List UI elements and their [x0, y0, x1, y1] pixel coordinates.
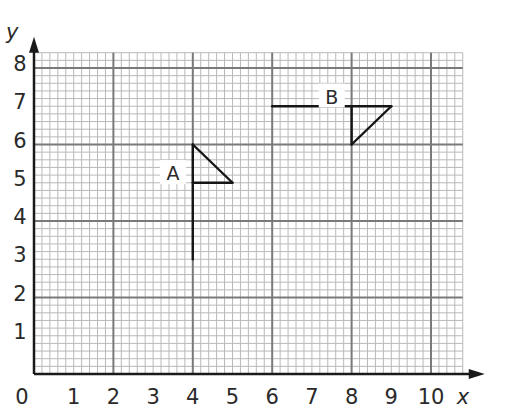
x-tick-label: 3: [146, 385, 159, 409]
x-axis-arrow-icon: [469, 369, 485, 379]
x-tick-label: 10: [418, 385, 445, 409]
y-tick-labels: 12345678: [13, 52, 26, 344]
y-tick-label: 1: [13, 320, 26, 344]
x-tick-label: 9: [385, 385, 398, 409]
shape-segment: [193, 145, 233, 183]
minor-grid: [34, 53, 463, 374]
coordinate-grid-figure: x y 012345678910 12345678 AB: [0, 0, 514, 413]
x-tick-label: 5: [226, 385, 239, 409]
y-tick-label: 8: [13, 52, 26, 76]
x-tick-label: 6: [266, 385, 279, 409]
y-tick-label: 6: [13, 129, 26, 153]
x-tick-label: 7: [305, 385, 318, 409]
shapes: AB: [160, 84, 391, 260]
x-tick-label: 2: [107, 385, 120, 409]
y-axis-label: y: [5, 20, 19, 44]
x-tick-label: 0: [15, 385, 28, 409]
x-tick-label: 4: [186, 385, 199, 409]
y-tick-label: 4: [13, 205, 26, 229]
y-tick-label: 7: [13, 90, 26, 114]
shape-segment: [352, 106, 392, 144]
x-tick-label: 8: [345, 385, 358, 409]
shape-a: A: [160, 145, 233, 260]
y-tick-label: 5: [13, 167, 26, 191]
x-tick-label: 1: [67, 385, 80, 409]
y-tick-label: 2: [13, 282, 26, 306]
shape-label: A: [166, 162, 179, 184]
x-axis-label: x: [456, 385, 470, 409]
y-tick-label: 3: [13, 243, 26, 267]
x-tick-labels: 012345678910: [15, 385, 444, 409]
y-axis-arrow-icon: [29, 37, 39, 53]
shape-label: B: [325, 86, 338, 108]
